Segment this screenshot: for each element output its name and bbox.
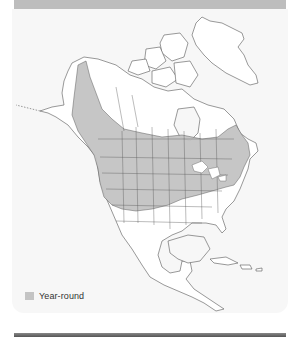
year-round-swatch	[25, 292, 34, 300]
greenland	[192, 17, 258, 85]
map-legend: Year-round	[25, 291, 84, 301]
gulf-of-mexico	[168, 235, 210, 263]
bottom-bar	[14, 333, 286, 337]
header-band	[14, 0, 286, 9]
aleutian-islands	[16, 105, 40, 111]
range-map-card: Year-round	[12, 9, 288, 313]
legend-label-year-round: Year-round	[39, 291, 84, 301]
cuba	[210, 257, 238, 265]
north-america-map	[12, 9, 288, 313]
